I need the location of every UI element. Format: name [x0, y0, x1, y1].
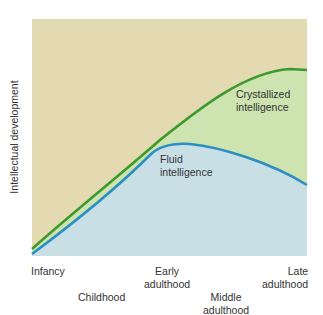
y-axis-label: Intellectual development [8, 80, 20, 193]
x-tick-childhood: Childhood [78, 291, 125, 304]
annotation-fluid: Fluid intelligence [160, 153, 213, 178]
x-tick-middle-adulthood: Middle adulthood [203, 291, 249, 315]
x-tick-late-adulthood: Late adulthood [262, 265, 308, 290]
annotation-crystallized: Crystallized intelligence [236, 88, 290, 113]
x-tick-early-adulthood: Early adulthood [144, 265, 190, 290]
x-tick-infancy: Infancy [31, 265, 65, 278]
